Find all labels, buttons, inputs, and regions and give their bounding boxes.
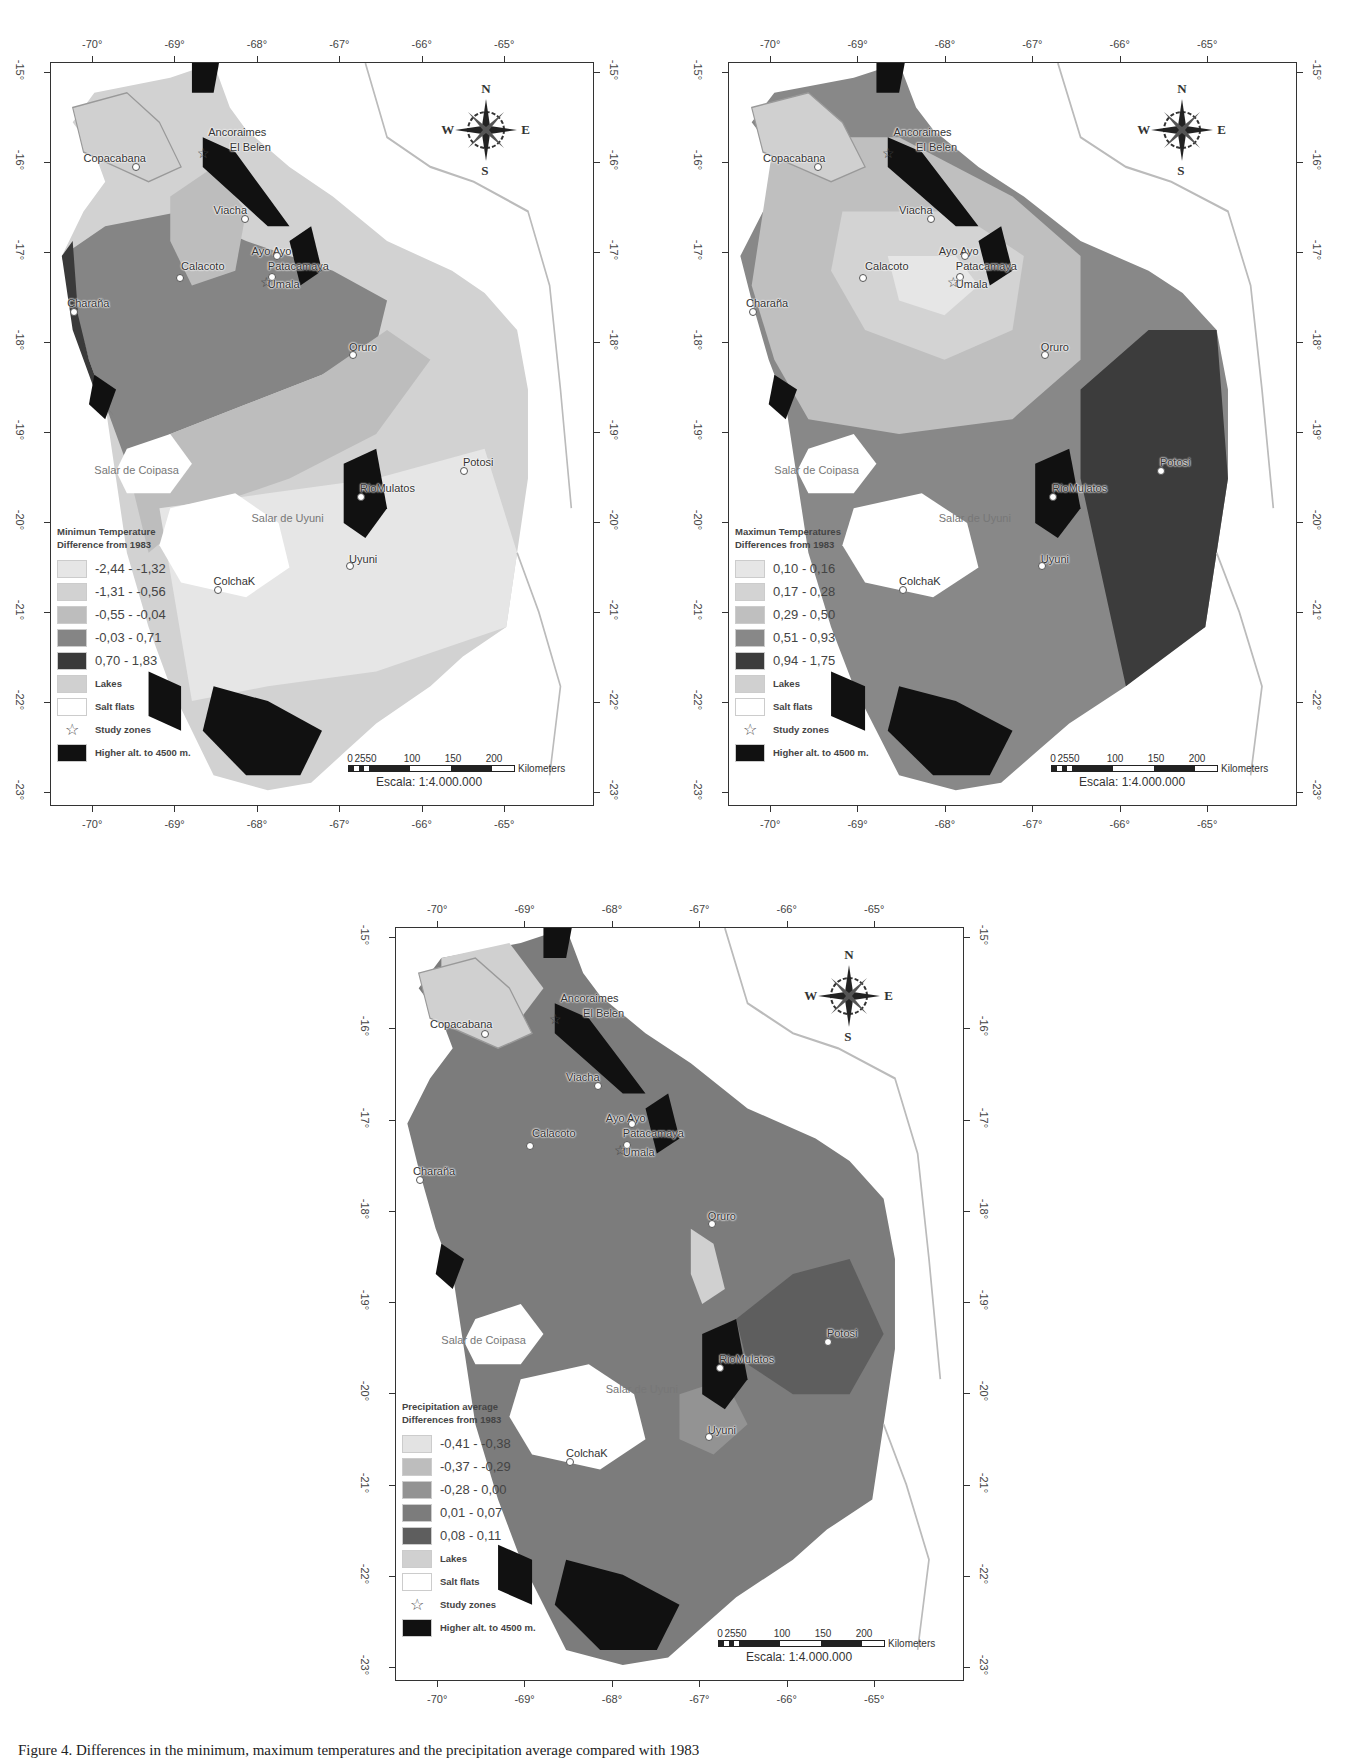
- latitude-label-left: -22°: [359, 1564, 371, 1584]
- legend-swatch: [57, 675, 87, 693]
- legend-item: -2,44 - -1,32: [57, 557, 232, 580]
- legend-swatch: [402, 1527, 432, 1545]
- graticule-tick: [44, 522, 50, 523]
- compass-e-label: E: [1217, 122, 1226, 138]
- graticule-tick: [389, 1576, 395, 1577]
- graticule-tick: [1032, 806, 1033, 812]
- compass-n-label: N: [844, 947, 853, 963]
- latitude-label-right: -21°: [978, 1472, 990, 1492]
- scale-tick-label: 200: [1189, 753, 1206, 764]
- study-zone-star-icon: ☆: [947, 274, 960, 290]
- map-panel-min-temp: Ancoraimes☆El BelenCopacabanaViachaAyo A…: [0, 0, 640, 860]
- compass-rose-icon: NSWE: [1137, 85, 1227, 175]
- place-label: Ancoraimes: [893, 126, 951, 138]
- graticule-tick: [44, 342, 50, 343]
- latitude-label-right: -23°: [608, 780, 620, 800]
- legend-title-line-1: Minimun Temperature: [57, 525, 232, 538]
- legend-label: 0,17 - 0,28: [773, 584, 835, 599]
- latitude-label-right: -18°: [608, 330, 620, 350]
- compass-n-label: N: [1177, 81, 1186, 97]
- latitude-label-right: -15°: [1311, 60, 1323, 80]
- longitude-label-top: -67°: [1022, 38, 1042, 50]
- graticule-tick: [1297, 522, 1303, 523]
- legend-swatch: [735, 606, 765, 624]
- latitude-label-left: -17°: [692, 240, 704, 260]
- latitude-label-left: -20°: [14, 510, 26, 530]
- legend-label: 0,51 - 0,93: [773, 630, 835, 645]
- scale-tick-label: 50: [735, 1628, 746, 1639]
- longitude-label-bottom: -66°: [1110, 818, 1130, 830]
- longitude-label-bottom: -68°: [935, 818, 955, 830]
- place-label: Calacoto: [181, 260, 224, 272]
- legend-label: Lakes: [95, 678, 122, 689]
- latitude-label-right: -22°: [978, 1564, 990, 1584]
- scale-unit: Kilometers: [888, 1638, 935, 1649]
- legend-swatch: [402, 1550, 432, 1568]
- legend-label: 0,94 - 1,75: [773, 653, 835, 668]
- legend-swatch: [735, 583, 765, 601]
- compass-w-label: W: [1137, 122, 1150, 138]
- graticule-tick: [964, 1393, 970, 1394]
- legend-swatch: [735, 629, 765, 647]
- latitude-label-right: -22°: [608, 690, 620, 710]
- place-label: Salar de Coipasa: [441, 1334, 525, 1346]
- legend-label: 0,70 - 1,83: [95, 653, 157, 668]
- town-marker-icon: [824, 1338, 832, 1346]
- latitude-label-right: -16°: [608, 150, 620, 170]
- graticule-tick: [174, 56, 175, 62]
- map-frame: Ancoraimes☆El BelenCopacabanaViachaAyo A…: [395, 927, 964, 1681]
- town-marker-icon: [70, 308, 78, 316]
- legend-title-line-2: Difference from 1983: [57, 538, 232, 551]
- graticule-tick: [964, 1302, 970, 1303]
- graticule-tick: [1120, 806, 1121, 812]
- graticule-tick: [524, 1681, 525, 1687]
- graticule-tick: [1297, 252, 1303, 253]
- graticule-tick: [389, 1393, 395, 1394]
- legend-item: -0,55 - -0,04: [57, 603, 232, 626]
- legend-title-line-1: Precipitation average: [402, 1400, 577, 1413]
- latitude-label-right: -20°: [1311, 510, 1323, 530]
- place-label: Potosi: [1160, 456, 1191, 468]
- graticule-tick: [1297, 702, 1303, 703]
- study-zone-star-icon: ☆: [197, 145, 210, 161]
- graticule-tick: [437, 1681, 438, 1687]
- legend-swatch: [57, 606, 87, 624]
- longitude-label-bottom: -70°: [427, 1693, 447, 1705]
- latitude-label-right: -20°: [978, 1381, 990, 1401]
- latitude-label-right: -18°: [1311, 330, 1323, 350]
- legend-swatch: [735, 652, 765, 670]
- legend-item: Higher alt. to 4500 m.: [57, 741, 232, 764]
- legend-item: ☆Study zones: [735, 718, 910, 741]
- longitude-label-bottom: -69°: [847, 818, 867, 830]
- star-icon: ☆: [57, 720, 87, 739]
- legend-item: -1,31 - -0,56: [57, 580, 232, 603]
- legend-label: Study zones: [95, 724, 151, 735]
- latitude-label-left: -17°: [359, 1107, 371, 1127]
- graticule-tick: [964, 937, 970, 938]
- graticule-tick: [389, 1667, 395, 1668]
- graticule-tick: [257, 56, 258, 62]
- graticule-tick: [722, 522, 728, 523]
- legend-item: 0,51 - 0,93: [735, 626, 910, 649]
- longitude-label-top: -70°: [427, 903, 447, 915]
- map-frame: Ancoraimes☆El BelenCopacabanaViachaAyo A…: [50, 62, 594, 806]
- legend-label: Study zones: [440, 1599, 496, 1610]
- scale-tick-label: 150: [815, 1628, 832, 1639]
- latitude-label-left: -21°: [14, 600, 26, 620]
- latitude-label-left: -16°: [359, 1016, 371, 1036]
- latitude-label-right: -23°: [978, 1655, 990, 1675]
- legend-label: Salt flats: [440, 1576, 480, 1587]
- scale-bar: 02550100150200KilometersEscala: 1:4.000.…: [1051, 753, 1261, 789]
- graticule-tick: [594, 342, 600, 343]
- place-label: Patacamaya: [956, 260, 1017, 272]
- longitude-label-bottom: -69°: [514, 1693, 534, 1705]
- graticule-tick: [389, 1211, 395, 1212]
- graticule-tick: [594, 522, 600, 523]
- star-icon: ☆: [735, 720, 765, 739]
- legend-item: 0,08 - 0,11: [402, 1524, 577, 1547]
- legend-item: Lakes: [57, 672, 232, 695]
- longitude-label-top: -70°: [82, 38, 102, 50]
- legend-item: ☆Study zones: [402, 1593, 577, 1616]
- compass-s-label: S: [481, 163, 488, 179]
- latitude-label-right: -20°: [608, 510, 620, 530]
